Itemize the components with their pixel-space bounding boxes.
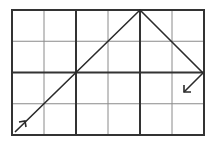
light-ray-path — [15, 10, 203, 132]
exit-ray — [184, 73, 203, 92]
reflection-grid-diagram — [0, 0, 215, 145]
